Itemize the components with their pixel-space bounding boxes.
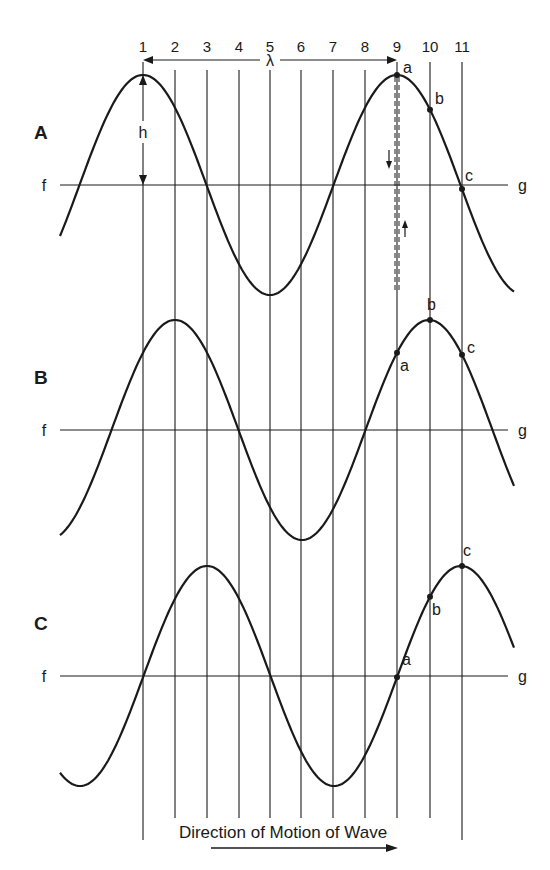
point-label-b: b bbox=[432, 601, 441, 618]
column-number: 4 bbox=[235, 38, 243, 55]
point-label-c: c bbox=[467, 339, 475, 356]
arrowhead-left-icon bbox=[143, 56, 153, 64]
column-number: 7 bbox=[329, 38, 337, 55]
row-label-A: A bbox=[34, 122, 48, 143]
wave-motion-diagram: 1234567891011fgAabcfgBabcfgCabcλhDirecti… bbox=[0, 0, 550, 870]
point-c bbox=[459, 563, 465, 569]
column-number: 1 bbox=[139, 38, 147, 55]
arrow-down-icon bbox=[386, 161, 392, 169]
column-number: 11 bbox=[454, 38, 470, 55]
height-label: h bbox=[139, 124, 148, 141]
axis-label-f: f bbox=[42, 668, 47, 685]
point-label-b: b bbox=[427, 296, 436, 313]
arrow-right-icon bbox=[386, 844, 398, 852]
point-a bbox=[394, 350, 400, 356]
point-a bbox=[394, 674, 400, 680]
axis-label-g: g bbox=[518, 422, 527, 439]
point-b bbox=[427, 107, 433, 113]
row-label-B: B bbox=[34, 367, 48, 388]
axis-label-g: g bbox=[518, 177, 527, 194]
annotations bbox=[135, 50, 465, 852]
point-b bbox=[427, 594, 433, 600]
arrow-up-icon bbox=[402, 220, 408, 228]
point-label-b: b bbox=[435, 90, 444, 107]
point-c bbox=[459, 186, 465, 192]
point-label-a: a bbox=[402, 651, 411, 668]
column-number: 8 bbox=[361, 38, 369, 55]
point-label-c: c bbox=[465, 167, 473, 184]
column-number: 9 bbox=[393, 38, 401, 55]
point-c bbox=[459, 352, 465, 358]
point-label-a: a bbox=[400, 357, 409, 374]
column-number: 10 bbox=[422, 38, 439, 55]
wavelength-label: λ bbox=[266, 52, 274, 69]
column-number: 3 bbox=[203, 38, 211, 55]
row-label-C: C bbox=[34, 613, 48, 634]
axis-label-g: g bbox=[518, 668, 527, 685]
vertical-grid-lines bbox=[143, 62, 462, 840]
column-number: 2 bbox=[171, 38, 179, 55]
caption: Direction of Motion of Wave bbox=[179, 823, 387, 842]
point-b bbox=[427, 317, 433, 323]
height-arrow-up-icon bbox=[139, 75, 147, 85]
arrowhead-right-icon bbox=[387, 56, 397, 64]
point-label-a: a bbox=[403, 59, 412, 76]
height-arrow-down-icon bbox=[139, 175, 147, 185]
point-label-c: c bbox=[463, 542, 471, 559]
column-number: 6 bbox=[297, 38, 305, 55]
axis-label-f: f bbox=[42, 422, 47, 439]
axis-label-f: f bbox=[42, 177, 47, 194]
